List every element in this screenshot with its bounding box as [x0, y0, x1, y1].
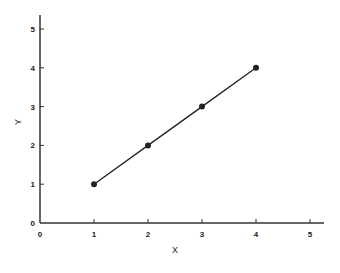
data-point-marker [199, 104, 205, 110]
data-series [91, 65, 259, 187]
data-point-marker [91, 181, 97, 187]
y-tick-label: 4 [31, 64, 36, 73]
y-tick-label: 1 [31, 180, 36, 189]
y-tick-label: 2 [31, 141, 36, 150]
y-tick-label: 0 [31, 219, 36, 228]
x-tick-label: 0 [38, 230, 43, 239]
data-point-marker [253, 65, 259, 71]
y-tick-label: 5 [31, 25, 36, 34]
x-axis-ticks: 012345 [38, 219, 313, 239]
x-axis-label: X [172, 245, 178, 255]
x-tick-label: 3 [200, 230, 205, 239]
x-tick-label: 2 [146, 230, 151, 239]
x-tick-label: 1 [92, 230, 97, 239]
series-line [94, 68, 256, 184]
x-tick-label: 5 [308, 230, 313, 239]
line-chart: 012345 012345 X Y [0, 0, 340, 273]
x-tick-label: 4 [254, 230, 259, 239]
data-point-marker [145, 142, 151, 148]
y-axis-ticks: 012345 [31, 25, 44, 228]
y-axis-label: Y [13, 119, 23, 125]
axes [40, 15, 324, 223]
y-tick-label: 3 [31, 103, 36, 112]
